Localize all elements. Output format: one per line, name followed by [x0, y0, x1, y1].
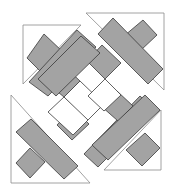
quilt-block-diagram: Quilt block exploded assembly diagram — [0, 0, 184, 194]
